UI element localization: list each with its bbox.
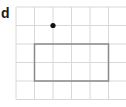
grid-lines — [16, 7, 126, 100]
point-marker — [50, 23, 55, 28]
grid-diagram — [0, 0, 126, 107]
